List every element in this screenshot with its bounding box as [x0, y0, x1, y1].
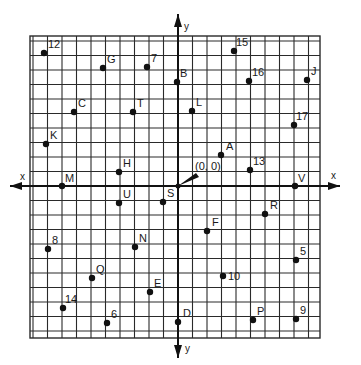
point-label: B: [180, 67, 187, 79]
point-dot: [71, 109, 77, 115]
point-dot: [132, 244, 138, 250]
point-dot: [60, 305, 66, 311]
point-dot: [144, 64, 150, 70]
point-label: K: [50, 129, 58, 141]
point-k: K: [43, 129, 58, 147]
point-label: 17: [296, 110, 308, 122]
point-label: N: [139, 232, 147, 244]
point-label: R: [270, 199, 278, 211]
point-p: P: [250, 305, 265, 323]
point-dot: [189, 108, 195, 114]
x-axis-negative-label: x: [20, 171, 25, 182]
point-h: H: [116, 157, 131, 175]
point-9: 9: [293, 304, 306, 322]
point-label: T: [137, 97, 144, 109]
point-dot: [262, 211, 268, 217]
point-5: 5: [293, 245, 306, 263]
point-dot: [246, 78, 252, 84]
point-dot: [174, 79, 180, 85]
x-axis-right-arrow-icon: [328, 182, 340, 190]
x-axis-left-arrow-icon: [10, 182, 22, 190]
origin-dot: [176, 184, 181, 189]
point-7: 7: [144, 52, 157, 70]
y-axis-down-arrow-icon: [174, 345, 182, 358]
point-8: 8: [45, 234, 58, 252]
point-dot: [218, 152, 224, 158]
point-dot: [100, 65, 106, 71]
point-label: J: [311, 65, 317, 77]
point-u: U: [116, 188, 131, 206]
point-label: 14: [65, 293, 77, 305]
point-dot: [291, 122, 297, 128]
point-j: J: [304, 65, 317, 83]
origin-label: (0, 0): [195, 160, 221, 172]
point-dot: [43, 141, 49, 147]
point-dot: [41, 50, 47, 56]
point-15: 15: [231, 36, 248, 54]
y-axis-negative-label: y: [185, 343, 190, 354]
point-label: 6: [111, 308, 117, 320]
point-dot: [89, 275, 95, 281]
point-label: 5: [300, 245, 306, 257]
point-s: S: [160, 187, 175, 205]
point-label: 8: [52, 234, 58, 246]
point-dot: [220, 273, 226, 279]
point-label: D: [183, 307, 191, 319]
point-c: C: [71, 97, 86, 115]
point-f: F: [204, 216, 219, 234]
point-label: 7: [151, 52, 157, 64]
point-dot: [231, 48, 237, 54]
point-dot: [204, 228, 210, 234]
point-13: 13: [247, 155, 265, 173]
point-label: 10: [228, 270, 240, 282]
point-label: 16: [252, 66, 264, 78]
point-label: E: [154, 277, 161, 289]
point-label: M: [65, 172, 74, 184]
point-dot: [293, 257, 299, 263]
point-label: 9: [300, 304, 306, 316]
point-10: 10: [220, 270, 240, 282]
point-t: T: [130, 97, 144, 115]
point-label: H: [123, 157, 131, 169]
point-dot: [116, 200, 122, 206]
point-dot: [104, 320, 110, 326]
point-label: 12: [48, 38, 60, 50]
point-dot: [247, 167, 253, 173]
point-label: 13: [253, 155, 265, 167]
origin-pointer-arrow-icon: [178, 173, 199, 186]
origin-marker: (0, 0): [176, 160, 221, 189]
point-dot: [160, 199, 166, 205]
y-axis-positive-label: y: [184, 21, 189, 32]
point-dot: [293, 316, 299, 322]
point-17: 17: [291, 110, 308, 128]
point-dot: [304, 77, 310, 83]
point-label: C: [78, 97, 86, 109]
point-label: L: [196, 96, 202, 108]
point-label: 15: [236, 36, 248, 48]
point-dot: [130, 109, 136, 115]
point-dot: [147, 289, 153, 295]
point-label: S: [167, 187, 174, 199]
point-dot: [45, 246, 51, 252]
point-dot: [116, 169, 122, 175]
coordinate-grid: x x y y (0, 0) 12G715B16JCTL17KA13HMVUSF…: [0, 0, 361, 365]
point-label: Q: [96, 263, 105, 275]
x-axis-positive-label: x: [331, 170, 336, 181]
point-dot: [250, 317, 256, 323]
point-label: P: [257, 305, 264, 317]
point-dot: [175, 319, 181, 325]
point-16: 16: [246, 66, 264, 84]
point-label: V: [298, 172, 306, 184]
point-label: G: [107, 53, 116, 65]
point-label: A: [226, 140, 234, 152]
point-label: U: [123, 188, 131, 200]
point-label: F: [212, 216, 219, 228]
y-axis-up-arrow-icon: [174, 14, 182, 27]
